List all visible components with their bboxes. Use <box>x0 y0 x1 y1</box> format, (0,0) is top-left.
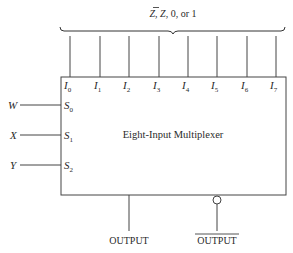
pin-i6: I6 <box>240 79 249 94</box>
pin-i3: I3 <box>152 79 161 94</box>
signal-y: Y <box>10 159 18 171</box>
data-input-labels: I0 I1 I2 I3 I4 I5 I6 I7 <box>63 79 278 94</box>
select-input-lines <box>20 105 61 165</box>
data-input-lines <box>70 36 276 77</box>
pin-i0: I0 <box>63 79 72 94</box>
pin-s0: S0 <box>64 99 74 114</box>
pin-s1: S1 <box>64 129 74 144</box>
pin-i5: I5 <box>210 79 219 94</box>
select-signal-labels: W X Y <box>8 99 18 171</box>
pin-i2: I2 <box>122 79 131 94</box>
signal-x: X <box>9 129 18 141</box>
inversion-bubble-icon <box>213 196 221 204</box>
signal-w: W <box>8 99 18 111</box>
pin-s2: S2 <box>64 159 74 174</box>
multiplexer-diagram: Z, Z, 0, or 1 I0 I1 I2 I3 I4 I5 I6 I7 W … <box>0 0 293 253</box>
input-group-label: Z, Z, 0, or 1 <box>150 8 197 19</box>
pin-i1: I1 <box>93 79 102 94</box>
output-label: OUTPUT <box>109 235 148 246</box>
block-label: Eight-Input Multiplexer <box>123 129 224 140</box>
input-brace <box>60 27 285 34</box>
select-pin-labels: S0 S1 S2 <box>64 99 74 174</box>
pin-i4: I4 <box>181 79 190 94</box>
pin-i7: I7 <box>269 79 278 94</box>
inverted-output-label: OUTPUT <box>197 235 236 246</box>
